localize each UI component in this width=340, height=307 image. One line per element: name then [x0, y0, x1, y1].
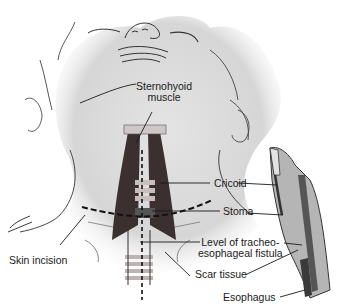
- label-stoma: Stoma: [223, 206, 253, 217]
- label-sternohyoid-line2: muscle: [136, 92, 192, 103]
- label-skin-incision: Skin incision: [9, 255, 67, 266]
- label-sternohyoid-muscle: Sternohyoid muscle: [136, 81, 192, 103]
- label-fistula-line2: esophageal fistula: [198, 248, 283, 259]
- artist-signature: [8, 216, 32, 232]
- ear-left: [25, 98, 42, 131]
- label-scar-tissue: Scar tissue: [195, 269, 247, 280]
- label-fistula: Level of tracheo- esophageal fistula: [198, 237, 283, 259]
- label-cricoid: Cricoid: [214, 178, 247, 189]
- leader-esophagus: [280, 290, 305, 297]
- sagittal-section-drawing: [270, 147, 330, 298]
- label-esophagus: Esophagus: [223, 292, 276, 303]
